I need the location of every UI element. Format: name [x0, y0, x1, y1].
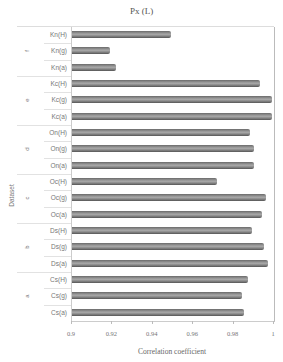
- bar-row: [72, 27, 274, 43]
- category-label: On(H): [17, 125, 67, 141]
- bar-row: [72, 207, 274, 223]
- bar: [72, 292, 242, 299]
- bar-row: [72, 272, 274, 288]
- bar-row: [72, 43, 274, 59]
- bar-row: [72, 305, 274, 321]
- x-tick: [111, 321, 112, 324]
- category-label: Kn(H): [17, 27, 67, 43]
- bar-row: [72, 109, 274, 125]
- bar: [72, 227, 252, 234]
- category-label: Ds(H): [17, 223, 67, 239]
- group-label: a: [24, 291, 30, 301]
- group-label: f: [24, 46, 30, 56]
- x-tick: [273, 321, 274, 324]
- x-tick: [71, 321, 72, 324]
- category-label: Ds(a): [17, 256, 67, 272]
- category-label: Oc(H): [17, 174, 67, 190]
- bar-row: [72, 158, 274, 174]
- bar-row: [72, 76, 274, 92]
- x-tick-label: 0.98: [218, 330, 248, 337]
- bar: [72, 145, 254, 152]
- bar-row: [72, 92, 274, 108]
- bar: [72, 96, 272, 103]
- x-tick-label: 0.94: [137, 330, 167, 337]
- bar-row: [72, 125, 274, 141]
- bar-row: [72, 288, 274, 304]
- category-label: Kn(a): [17, 60, 67, 76]
- bar-row: [72, 239, 274, 255]
- bar: [72, 309, 244, 316]
- bar: [72, 47, 110, 54]
- bar: [72, 113, 272, 120]
- x-tick: [233, 321, 234, 324]
- bar: [72, 129, 250, 136]
- bar-row: [72, 141, 274, 157]
- bar: [72, 31, 171, 38]
- x-axis-label: Correlation coefficient: [71, 347, 273, 356]
- category-label: Kc(a): [17, 109, 67, 125]
- category-label: On(a): [17, 158, 67, 174]
- group-label: b: [24, 242, 30, 252]
- bar: [72, 64, 116, 71]
- x-tick-label: 0.9: [56, 330, 86, 337]
- bar: [72, 178, 217, 185]
- x-tick-label: 0.92: [96, 330, 126, 337]
- bar-row: [72, 256, 274, 272]
- chart-title: Px (L): [0, 6, 283, 16]
- group-label: c: [24, 193, 30, 203]
- group-label: e: [24, 95, 30, 105]
- bar-row: [72, 60, 274, 76]
- bar-row: [72, 223, 274, 239]
- bar-row: [72, 174, 274, 190]
- bar: [72, 260, 268, 267]
- x-tick-label: 1: [258, 330, 283, 337]
- bar: [72, 211, 262, 218]
- bar: [72, 80, 260, 87]
- bar-row: [72, 190, 274, 206]
- category-label: Cs(a): [17, 305, 67, 321]
- plot-area: [71, 27, 275, 322]
- x-tick-label: 0.96: [177, 330, 207, 337]
- x-tick: [192, 321, 193, 324]
- bar: [72, 162, 254, 169]
- bar: [72, 276, 248, 283]
- bar: [72, 194, 266, 201]
- group-label: d: [24, 144, 30, 154]
- category-label: Cs(H): [17, 272, 67, 288]
- y-axis-label: Dataset: [8, 181, 15, 211]
- x-tick: [152, 321, 153, 324]
- category-label: Oc(a): [17, 207, 67, 223]
- category-label: Kc(H): [17, 76, 67, 92]
- bar: [72, 243, 264, 250]
